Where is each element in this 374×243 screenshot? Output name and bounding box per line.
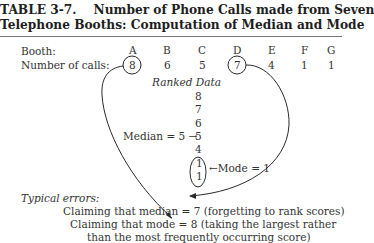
booth-d: D (233, 44, 241, 56)
title-line-1: TABLE 3-7. Number of Phone Calls made fr… (0, 3, 374, 18)
ranked-heading: Ranked Data (152, 76, 221, 88)
booth-c: C (198, 44, 206, 56)
booth-g: G (327, 44, 335, 56)
booth-f: F (301, 44, 308, 56)
calls-e: 4 (268, 59, 275, 71)
error-line-1: Claiming that median = 7 (forgetting to … (63, 205, 345, 217)
error-line-3: than the most frequently occurring score… (87, 231, 311, 243)
table-label: TABLE 3-7. (0, 3, 77, 17)
booth-b: B (163, 44, 171, 56)
divider-rule (0, 36, 342, 37)
booth-a: A (129, 44, 137, 56)
arrowhead-icon (189, 193, 196, 199)
ranked-value-6: 1 (196, 157, 203, 169)
ranked-value-5: 4 (195, 143, 202, 155)
error-line-2: Claiming that mode = 8 (taking the large… (70, 218, 336, 230)
calls-b: 6 (164, 59, 171, 71)
calls-d: 7 (234, 59, 241, 71)
calls-c: 5 (199, 59, 206, 71)
booth-e: E (268, 44, 276, 56)
calls-a: 8 (129, 59, 136, 71)
title-text-1: Number of Phone Calls made from Seven (94, 3, 374, 17)
table-title: TABLE 3-7. Number of Phone Calls made fr… (0, 3, 374, 33)
ranked-value-3: 6 (195, 117, 202, 129)
title-line-2: Telephone Booths: Computation of Median … (0, 18, 374, 33)
mode-label: ←Mode = 1 (209, 162, 270, 174)
ranked-value-7: 1 (196, 170, 203, 182)
median-label: Median = 5 → (123, 130, 197, 142)
booth-label: Booth: (21, 45, 56, 57)
errors-heading: Typical errors: (21, 192, 99, 204)
ranked-value-1: 8 (195, 90, 202, 102)
calls-label: Number of calls: (21, 59, 110, 71)
ranked-value-2: 7 (195, 103, 202, 115)
calls-f: 1 (301, 59, 308, 71)
curve-a-to-mode-error (102, 66, 172, 218)
calls-g: 1 (328, 59, 335, 71)
